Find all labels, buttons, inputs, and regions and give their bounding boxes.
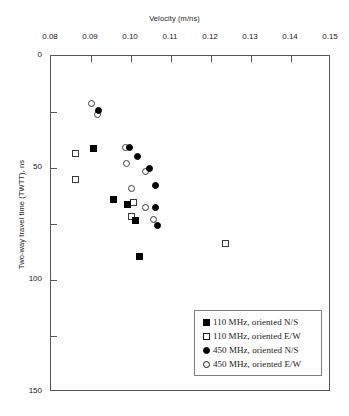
data-point [222, 240, 229, 247]
legend-item: 110 MHz, oriented E/W [199, 329, 316, 343]
y-tick-label: 50 [12, 162, 42, 171]
legend-marker-icon [199, 333, 213, 340]
x-tick-mark [211, 56, 212, 62]
x-tick-label: 0.10 [110, 32, 150, 41]
circle-open-icon [203, 361, 210, 368]
data-point [152, 204, 159, 211]
legend-marker-icon [199, 347, 213, 354]
x-tick-label: 0.15 [310, 32, 349, 41]
data-point [95, 107, 102, 114]
square-open-icon [203, 333, 210, 340]
y-tick-mark [51, 224, 57, 225]
y-tick-mark [51, 336, 57, 337]
data-point [124, 201, 131, 208]
chart-legend: 110 MHz, oriented N/S110 MHz, oriented E… [194, 310, 322, 376]
x-tick-label: 0.12 [190, 32, 230, 41]
data-point [123, 160, 130, 167]
data-point [88, 100, 95, 107]
x-tick-label: 0.08 [30, 32, 70, 41]
square-filled-icon [203, 319, 210, 326]
scatter-chart-figure: Velocity (m/ns) Two-way travel time (TWT… [0, 0, 349, 416]
legend-item: 450 MHz, oriented N/S [199, 343, 316, 357]
y-tick-mark [51, 168, 57, 169]
legend-item-label: 450 MHz, oriented E/W [213, 359, 301, 369]
x-tick-mark [131, 56, 132, 62]
data-point [132, 217, 139, 224]
legend-item: 450 MHz, oriented E/W [199, 357, 316, 371]
x-tick-label: 0.11 [150, 32, 190, 41]
x-tick-label: 0.14 [270, 32, 310, 41]
data-point [72, 176, 79, 183]
x-tick-label: 0.09 [70, 32, 110, 41]
data-point [136, 253, 143, 260]
data-point [142, 204, 149, 211]
data-point [128, 185, 135, 192]
data-point [146, 165, 153, 172]
legend-item: 110 MHz, oriented N/S [199, 315, 316, 329]
x-tick-mark [91, 56, 92, 62]
data-point [154, 222, 161, 229]
y-tick-mark [51, 280, 57, 281]
legend-marker-icon [199, 361, 213, 368]
data-point [134, 153, 141, 160]
x-tick-mark [171, 56, 172, 62]
x-axis-title: Velocity (m/ns) [0, 14, 349, 23]
y-tick-label: 150 [12, 386, 42, 395]
data-point [110, 196, 117, 203]
legend-item-label: 110 MHz, oriented E/W [213, 331, 301, 341]
data-point [126, 144, 133, 151]
x-tick-mark [251, 56, 252, 62]
data-point [72, 150, 79, 157]
legend-item-label: 450 MHz, oriented N/S [213, 345, 299, 355]
y-tick-label: 100 [12, 274, 42, 283]
x-tick-mark [291, 56, 292, 62]
y-axis-title: Two-way travel time (TWTT), ns [17, 135, 26, 295]
y-tick-label: 0 [12, 50, 42, 59]
circle-filled-icon [203, 347, 210, 354]
legend-marker-icon [199, 319, 213, 326]
legend-item-label: 110 MHz, oriented N/S [213, 317, 298, 327]
data-point [90, 145, 97, 152]
x-tick-label: 0.13 [230, 32, 270, 41]
y-tick-mark [51, 112, 57, 113]
data-point [130, 199, 137, 206]
data-point [152, 182, 159, 189]
